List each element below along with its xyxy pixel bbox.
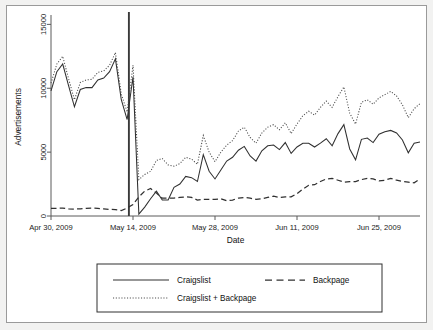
figure-panel: 050001000015000Apr 30, 2009May 14, 2009M…	[6, 5, 427, 323]
x-tick-label: May 14, 2009	[110, 223, 156, 232]
x-tick-label: Jun 25, 2009	[357, 223, 401, 232]
legend-box	[97, 264, 382, 312]
x-axis-title: Date	[227, 235, 245, 245]
y-tick-label: 15000	[39, 14, 48, 35]
figure-frame: 050001000015000Apr 30, 2009May 14, 2009M…	[0, 0, 433, 330]
y-tick-label: 5000	[39, 144, 48, 161]
y-tick-label: 0	[39, 214, 48, 218]
x-tick-label: May 28, 2009	[192, 223, 238, 232]
legend-label: Backpage	[313, 276, 350, 285]
legend-label: Craigslist + Backpage	[177, 294, 257, 303]
x-tick-label: Apr 30, 2009	[29, 223, 73, 232]
y-axis-title: Advertisements	[13, 88, 23, 146]
line-chart: 050001000015000Apr 30, 2009May 14, 2009M…	[7, 6, 426, 322]
legend-label: Craigslist	[177, 276, 211, 285]
y-tick-label: 10000	[39, 78, 48, 99]
x-tick-label: Jun 11, 2009	[275, 223, 318, 232]
